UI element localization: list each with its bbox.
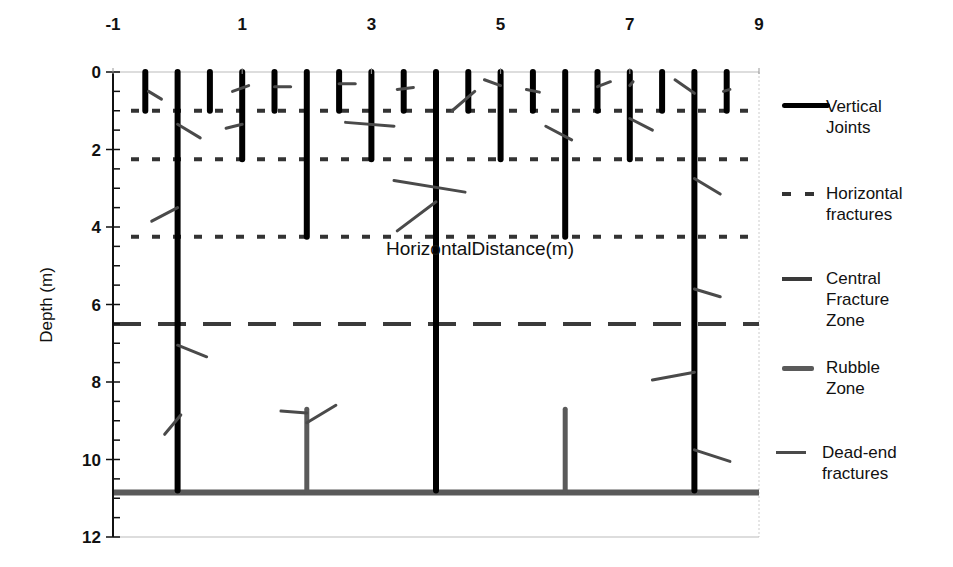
legend-swatch-central-fracture-zone bbox=[770, 268, 826, 298]
y-tick-label: 4 bbox=[92, 218, 102, 237]
legend-label: Dead-end fractures bbox=[822, 442, 897, 484]
legend-item-vertical-joints: Vertical Joints bbox=[770, 96, 882, 138]
x-tick-label: 7 bbox=[625, 15, 634, 34]
dead-end-fractures-layer bbox=[149, 80, 730, 462]
dead-end-fracture bbox=[397, 202, 436, 231]
dead-end-fracture bbox=[694, 179, 720, 195]
legend: Vertical Joints Horizontal fractures Cen… bbox=[770, 0, 953, 567]
x-tick-label: 3 bbox=[367, 15, 376, 34]
legend-item-horizontal-fractures: Horizontal fractures bbox=[770, 183, 903, 225]
legend-item-central-fracture-zone: Central Fracture Zone bbox=[770, 268, 889, 331]
legend-swatch-vertical-joints bbox=[770, 96, 826, 126]
x-tick-label: 1 bbox=[237, 15, 246, 34]
dead-end-fracture bbox=[694, 450, 730, 462]
legend-swatch-rubble-zone bbox=[770, 357, 826, 387]
vertical-joints-layer bbox=[145, 72, 726, 491]
dead-end-fracture bbox=[178, 345, 207, 357]
dead-end-fracture bbox=[178, 124, 201, 138]
dead-end-fracture bbox=[452, 91, 475, 110]
fracture-diagram: 024681012-113579 Depth (m) HorizontalDis… bbox=[0, 0, 770, 567]
x-tick-label: 9 bbox=[754, 15, 763, 34]
x-tick-label: -1 bbox=[105, 15, 120, 34]
dead-end-fracture bbox=[152, 208, 178, 222]
y-axis-label: Depth (m) bbox=[37, 267, 56, 343]
dead-end-fracture bbox=[397, 88, 413, 90]
dead-end-fracture bbox=[394, 181, 465, 193]
y-tick-label: 0 bbox=[92, 63, 101, 82]
legend-swatch-horizontal-fractures bbox=[770, 183, 826, 213]
dead-end-fracture bbox=[307, 405, 336, 422]
y-tick-label: 12 bbox=[82, 528, 101, 547]
dead-end-fracture bbox=[526, 89, 539, 92]
dead-end-fracture bbox=[281, 411, 307, 413]
y-tick-label: 2 bbox=[92, 141, 101, 160]
y-tick-label: 10 bbox=[82, 451, 101, 470]
legend-label: Rubble Zone bbox=[826, 357, 880, 399]
horizontal-fractures-layer bbox=[131, 111, 759, 237]
x-axis-label: HorizontalDistance(m) bbox=[386, 238, 574, 259]
legend-label: Central Fracture Zone bbox=[826, 268, 889, 331]
dead-end-fracture bbox=[723, 89, 729, 91]
legend-item-dead-end-fractures: Dead-end fractures bbox=[764, 442, 897, 484]
legend-label: Horizontal fractures bbox=[826, 183, 903, 225]
y-tick-label: 8 bbox=[92, 373, 101, 392]
x-tick-label: 5 bbox=[496, 15, 505, 34]
dead-end-fracture bbox=[149, 91, 162, 99]
dead-end-fracture bbox=[652, 372, 694, 380]
legend-label: Vertical Joints bbox=[826, 96, 882, 138]
dead-end-fracture bbox=[694, 289, 720, 297]
dead-end-fracture bbox=[346, 122, 394, 126]
dead-end-fracture bbox=[630, 119, 653, 131]
y-tick-label: 6 bbox=[92, 296, 101, 315]
legend-item-rubble-zone: Rubble Zone bbox=[770, 357, 880, 399]
legend-swatch-dead-end-fractures bbox=[764, 442, 822, 472]
